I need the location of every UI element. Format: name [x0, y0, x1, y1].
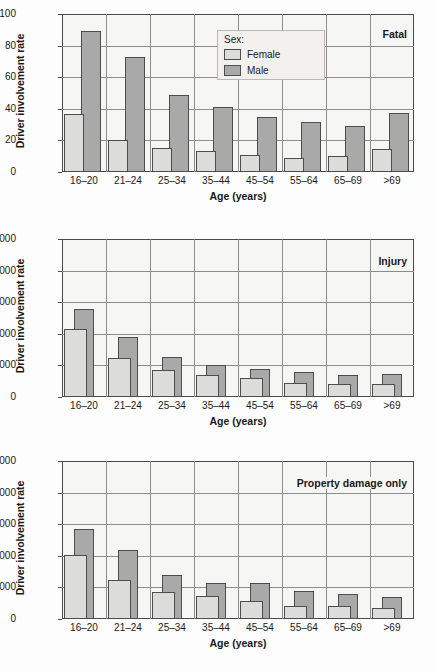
y-axis-tick-mark	[58, 46, 62, 47]
x-axis-tick-label: 16–20	[70, 400, 98, 411]
y-axis-tick-label: 20	[0, 134, 16, 145]
chart-panel-injury: Driver involvement rate Injury 16–2021–2…	[0, 225, 435, 447]
legend-title: Sex:	[224, 34, 324, 45]
bar-female	[108, 580, 131, 620]
y-axis-tick-label: 80	[0, 40, 16, 51]
bar-female	[240, 601, 263, 619]
y-axis-tick-mark	[58, 619, 62, 620]
legend-item-female: Female	[224, 47, 324, 62]
x-axis-tick-label: 65–69	[334, 400, 362, 411]
y-axis-tick-label: 12,000	[0, 518, 16, 529]
bar-male	[81, 31, 101, 172]
y-axis-tick-mark	[58, 556, 62, 557]
bar-female	[108, 358, 131, 398]
y-axis-tick-label: 40	[0, 103, 16, 114]
x-axis-tick-label: 45–54	[246, 622, 274, 633]
legend-sex: Sex: Female Male	[217, 30, 325, 80]
x-axis-tick-label: 55–64	[290, 622, 318, 633]
x-axis-tick-label: 45–54	[246, 400, 274, 411]
x-axis-labels: 16–2021–2425–3435–4445–5455–6465–69>69	[62, 175, 414, 189]
x-axis-tick-label: >69	[384, 400, 401, 411]
bar-female	[196, 375, 219, 397]
y-axis-tick-label: 8,000	[0, 265, 16, 276]
y-axis-tick-mark	[58, 493, 62, 494]
x-axis-tick-label: 21–24	[114, 175, 142, 186]
y-axis-tick-mark	[58, 77, 62, 78]
bar-female	[152, 592, 175, 619]
plot-area-injury: Injury	[62, 239, 414, 397]
bar-female	[328, 606, 351, 619]
bar-male	[345, 126, 365, 172]
bar-male	[257, 117, 277, 172]
bar-male	[169, 95, 189, 172]
panel-title-injury: Injury	[377, 255, 408, 267]
chart-panel-fatal: Driver involvement rate Fatal Sex: Femal…	[0, 0, 435, 225]
y-axis-title: Driver involvement rate	[14, 232, 28, 400]
bar-male	[389, 113, 409, 172]
chart-panel-property-damage: Driver involvement rate Property damage …	[0, 447, 435, 671]
panel-title-property-damage: Property damage only	[296, 477, 408, 489]
bar-series-container	[62, 239, 414, 397]
x-axis-labels: 16–2021–2425–3435–4445–5455–6465–69>69	[62, 400, 414, 414]
bar-male	[301, 122, 321, 172]
y-axis-title: Driver involvement rate	[14, 454, 28, 622]
bar-male	[125, 57, 145, 172]
x-axis-tick-label: >69	[384, 175, 401, 186]
y-axis-tick-mark	[58, 140, 62, 141]
bar-female	[108, 140, 128, 172]
x-axis-tick-label: 65–69	[334, 175, 362, 186]
y-axis-tick-mark	[58, 334, 62, 335]
bar-female	[328, 384, 351, 397]
y-axis-tick-mark	[58, 461, 62, 462]
y-axis-tick-label: 6,000	[0, 296, 16, 307]
x-axis-tick-label: 35–44	[202, 622, 230, 633]
bar-female	[284, 606, 307, 619]
x-axis-tick-label: 21–24	[114, 622, 142, 633]
x-axis-tick-label: 55–64	[290, 175, 318, 186]
y-axis-tick-mark	[58, 302, 62, 303]
x-axis-tick-label: 25–34	[158, 400, 186, 411]
x-axis-title: Age (years)	[62, 637, 414, 649]
y-axis-tick-label: 2,000	[0, 359, 16, 370]
x-axis-tick-label: 25–34	[158, 622, 186, 633]
x-axis-labels: 16–2021–2425–3435–4445–5455–6465–69>69	[62, 622, 414, 636]
plot-area-fatal: Fatal Sex: Female Male	[62, 14, 414, 172]
bar-female	[64, 555, 87, 619]
bar-female	[196, 596, 219, 619]
bar-female	[284, 158, 304, 172]
plot-area-property-damage: Property damage only	[62, 461, 414, 619]
legend-label-male: Male	[247, 65, 269, 76]
x-axis-tick-label: 21–24	[114, 400, 142, 411]
y-axis-tick-label: 20,000	[0, 455, 16, 466]
y-axis-tick-mark	[58, 524, 62, 525]
y-axis-tick-label: 8,000	[0, 550, 16, 561]
y-axis-tick-label: 4,000	[0, 328, 16, 339]
x-axis-tick-label: 16–20	[70, 622, 98, 633]
bar-female	[196, 151, 216, 172]
y-axis-tick-label: 60	[0, 71, 16, 82]
bar-female	[152, 148, 172, 172]
y-axis-tick-label: 0	[0, 391, 16, 402]
bar-female	[328, 156, 348, 172]
bar-female	[152, 370, 175, 397]
x-axis-tick-label: 16–20	[70, 175, 98, 186]
panel-title-fatal: Fatal	[381, 28, 408, 40]
figure-sheet: Driver involvement rate Fatal Sex: Femal…	[0, 0, 435, 671]
legend-item-male: Male	[224, 63, 324, 78]
bar-female	[372, 149, 392, 172]
bar-female	[64, 329, 87, 397]
bar-female	[372, 384, 395, 397]
y-axis-tick-mark	[58, 587, 62, 588]
y-axis-tick-mark	[58, 109, 62, 110]
x-axis-title: Age (years)	[62, 190, 414, 202]
bar-female	[372, 608, 395, 619]
y-axis-tick-mark	[58, 365, 62, 366]
x-axis-title: Age (years)	[62, 415, 414, 427]
y-axis-tick-mark	[58, 172, 62, 173]
y-axis-tick-label: 0	[0, 166, 16, 177]
bar-female	[64, 114, 84, 172]
y-axis-tick-label: 4,000	[0, 581, 16, 592]
legend-swatch-female-icon	[224, 49, 241, 60]
legend-swatch-male-icon	[224, 65, 241, 76]
bar-female	[240, 155, 260, 172]
